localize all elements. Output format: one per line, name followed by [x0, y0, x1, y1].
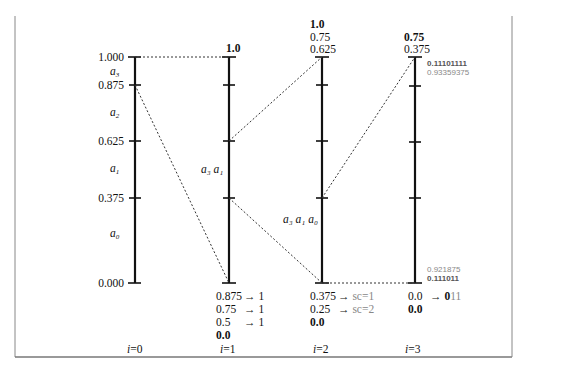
symbol-a0: a0 — [110, 227, 119, 244]
axis2-bottom-row-1: 0.375→ sc=1 — [310, 290, 374, 303]
axis-lines — [135, 57, 415, 283]
axis2-bottom-row-2: 0.25→ sc=2 — [310, 303, 374, 316]
axis3-top-annotation-1: 0.11101111 — [427, 59, 467, 68]
axis3-bottom-row-1: 0.0→ 011 — [408, 290, 461, 303]
symbol-a1: a1 — [110, 162, 119, 179]
axis3-bottom-row-2: 0.0 — [408, 303, 422, 316]
axis3-bottom-annotation-2: 0.111011 — [427, 274, 459, 283]
symbol-a2: a2 — [110, 106, 119, 123]
axis-label-i3: i=3 — [405, 343, 420, 356]
axis-label-i2: i=2 — [313, 343, 328, 356]
axis2-top-value-3: 0.625 — [310, 43, 336, 56]
axis-label-i1: i=1 — [220, 343, 235, 356]
axis1-side-symbols: a₃ a₁ — [201, 163, 223, 176]
axis3-top-annotation-2: 0.93359375 — [427, 68, 469, 77]
axis3-top-value-2: 0.375 — [404, 43, 430, 56]
axis1-bottom-row-3: 0.5→ 1 — [216, 316, 264, 329]
axis1-bottom-row-1: 0.875→ 1 — [216, 290, 264, 303]
axis1-bottom-row-4: 0.0 — [216, 329, 230, 342]
axis2-top-value-1: 1.0 — [310, 18, 324, 31]
axis-ticks — [128, 57, 422, 283]
axis3-bottom-annotation-1: 0.921875 — [427, 265, 460, 274]
tick-label-0625: 0.625 — [70, 135, 124, 148]
axis2-side-symbols: a₃ a₁ a₀ — [283, 213, 318, 226]
tick-label-0375: 0.375 — [70, 192, 124, 205]
axis-label-i0: i=0 — [127, 343, 142, 356]
symbol-a3: a3 — [110, 65, 119, 82]
axis1-bottom-row-2: 0.75→ 1 — [216, 303, 264, 316]
tick-label-1000: 1.000 — [70, 51, 124, 64]
axis1-top-value: 1.0 — [226, 42, 240, 55]
axis2-bottom-row-3: 0.0 — [310, 316, 324, 329]
tick-label-0000: 0.000 — [70, 277, 124, 290]
mapping-lines — [135, 57, 415, 283]
